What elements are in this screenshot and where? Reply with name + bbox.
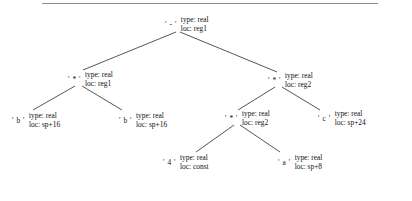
node-loc-label: loc: reg2	[285, 81, 313, 90]
node-loc-label: loc: sp+16	[136, 121, 167, 130]
node-symbol: ' c '	[318, 110, 331, 123]
edge-mul-right-to-var-c	[282, 87, 320, 110]
edge-mul-inner-to-var-a	[240, 125, 280, 152]
node-loc-label: loc: const	[180, 163, 209, 172]
node-attributes: type: real loc: sp+8	[295, 154, 323, 171]
tree-node-mul-right: ' * ' type: real loc: reg2	[268, 72, 313, 89]
node-attributes: type: real loc: sp+24	[335, 110, 366, 127]
tree-node-b-right: ' b ' type: real loc: sp+16	[119, 112, 167, 129]
edge-root-to-mul-right	[180, 32, 277, 72]
node-symbol: ' - '	[165, 16, 177, 29]
node-symbol: ' 4 '	[163, 154, 176, 167]
node-symbol: ' b '	[119, 112, 132, 125]
node-attributes: type: real loc: reg2	[242, 110, 270, 127]
edge-mul-right-to-mul-inner	[238, 87, 275, 110]
node-loc-label: loc: sp+24	[335, 119, 366, 128]
edge-mul-inner-to-const-four	[196, 125, 234, 152]
tree-node-var-a: ' a ' type: real loc: sp+8	[278, 154, 322, 171]
node-attributes: type: real loc: sp+16	[29, 112, 60, 129]
node-loc-label: loc: sp+16	[29, 121, 60, 130]
tree-node-const-four: ' 4 ' type: real loc: const	[163, 154, 209, 171]
tree-node-b-left: ' b ' type: real loc: sp+16	[12, 112, 60, 129]
node-symbol: ' * '	[225, 110, 238, 123]
tree-node-root: ' - ' type: real loc: reg1	[165, 16, 209, 33]
tree-node-mul-inner: ' * ' type: real loc: reg2	[225, 110, 270, 127]
node-loc-label: loc: reg1	[85, 80, 113, 89]
edge-root-to-mul-left	[83, 32, 176, 70]
tree-node-var-c: ' c ' type: real loc: sp+24	[318, 110, 366, 127]
edge-mul-left-to-b-right	[82, 86, 122, 110]
figure-canvas: ' - ' type: real loc: reg1 ' * ' type: r…	[0, 0, 412, 201]
node-symbol: ' a '	[278, 154, 291, 167]
node-symbol: ' * '	[68, 71, 81, 84]
node-attributes: type: real loc: const	[180, 154, 209, 171]
node-loc-label: loc: reg1	[181, 25, 209, 34]
node-attributes: type: real loc: reg1	[85, 71, 113, 88]
node-loc-label: loc: reg2	[242, 119, 270, 128]
tree-node-mul-left: ' * ' type: real loc: reg1	[68, 71, 113, 88]
node-symbol: ' b '	[12, 112, 25, 125]
node-symbol: ' * '	[268, 72, 281, 85]
node-attributes: type: real loc: reg2	[285, 72, 313, 89]
node-attributes: type: real loc: reg1	[181, 16, 209, 33]
edge-mul-left-to-b-left	[33, 86, 75, 110]
node-attributes: type: real loc: sp+16	[136, 112, 167, 129]
node-loc-label: loc: sp+8	[295, 163, 323, 172]
